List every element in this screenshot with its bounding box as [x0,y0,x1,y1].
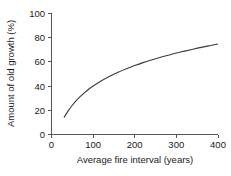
y-tick-label-0: 0 [40,129,45,140]
y-tick-label-80: 80 [34,32,45,43]
chart-figure: 100 80 60 40 20 0 0 100 200 300 400 Aver… [0,0,231,176]
data-series-line [64,44,218,118]
y-tick-label-100: 100 [29,8,45,19]
x-axis-ticks [52,135,219,139]
y-axis-ticks [48,14,52,135]
x-axis-tick-labels: 0 100 200 300 400 [49,139,226,150]
x-tick-label-100: 100 [85,139,101,150]
x-tick-label-400: 400 [210,139,226,150]
y-tick-label-60: 60 [34,56,45,67]
x-tick-label-0: 0 [49,139,54,150]
y-tick-label-20: 20 [34,105,45,116]
y-tick-label-40: 40 [34,81,45,92]
x-axis-title: Average fire interval (years) [77,154,194,165]
x-tick-label-300: 300 [168,139,184,150]
y-axis-title: Amount of old growth (%) [5,20,16,127]
chart-plot-area: 100 80 60 40 20 0 0 100 200 300 400 Aver… [0,0,231,176]
y-axis-tick-labels: 100 80 60 40 20 0 [29,8,45,140]
x-tick-label-200: 200 [127,139,143,150]
